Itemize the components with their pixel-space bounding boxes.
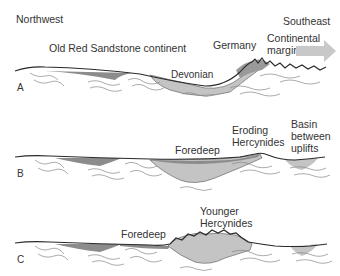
panel-a-section <box>15 40 336 97</box>
devonian-dark-wedge-a <box>45 71 132 80</box>
dark-wedge-c <box>55 244 122 252</box>
cross-section-drawing <box>0 0 340 276</box>
panel-c-section <box>15 230 332 271</box>
panel-b-section <box>15 153 330 190</box>
dark-wedge-b <box>55 158 122 166</box>
hercynides-fill-c <box>168 233 252 263</box>
southeast-arrow-icon <box>296 40 336 62</box>
